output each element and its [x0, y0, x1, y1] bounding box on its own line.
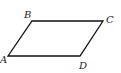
vertex-label-a: A [0, 54, 7, 65]
parallelogram-abcd [8, 21, 103, 56]
vertex-label-c: C [106, 14, 114, 25]
vertex-label-d: D [78, 60, 87, 71]
parallelogram-diagram: A B C D [0, 0, 121, 73]
vertex-label-b: B [23, 9, 31, 20]
